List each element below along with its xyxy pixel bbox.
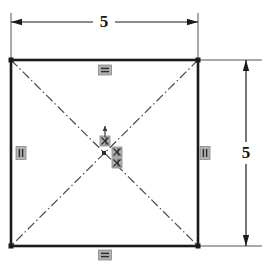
horizontal-constraint-icon-background: [99, 65, 112, 75]
dimension-horizontal[interactable]: 5: [11, 12, 198, 31]
horizontal-constraint-icon-background: [99, 250, 112, 260]
vertical-constraint-icon-background: [16, 147, 26, 160]
dimension-label-horizontal[interactable]: 5: [100, 12, 109, 31]
constraint-horizontal-bottom[interactable]: [99, 250, 112, 260]
constraint-equal-center-top[interactable]: [100, 136, 110, 146]
corner-point-bottom-right[interactable]: [196, 244, 201, 249]
origin-point[interactable]: [102, 151, 106, 155]
arrowhead-top: [243, 60, 249, 71]
corner-point-top-left[interactable]: [9, 58, 14, 63]
origin-arrowhead-icon: [103, 126, 108, 131]
constraint-equal-center-low[interactable]: [112, 158, 122, 168]
dimension-label-vertical[interactable]: 5: [242, 143, 251, 162]
constraint-equal-center-mid[interactable]: [112, 147, 122, 157]
constraint-horizontal-top[interactable]: [99, 65, 112, 75]
constraint-vertical-right[interactable]: [200, 147, 210, 160]
corner-point-top-right[interactable]: [196, 58, 201, 63]
dimension-vertical[interactable]: 5: [242, 60, 251, 246]
corner-point-bottom-left[interactable]: [9, 244, 14, 249]
cad-drawing-canvas: 55: [0, 0, 264, 269]
arrowhead-left: [11, 19, 22, 25]
vertical-constraint-icon-background: [200, 147, 210, 160]
arrowhead-right: [187, 19, 198, 25]
constraint-vertical-left[interactable]: [16, 147, 26, 160]
arrowhead-bottom: [243, 235, 249, 246]
drawing-svg: 55: [0, 0, 264, 269]
